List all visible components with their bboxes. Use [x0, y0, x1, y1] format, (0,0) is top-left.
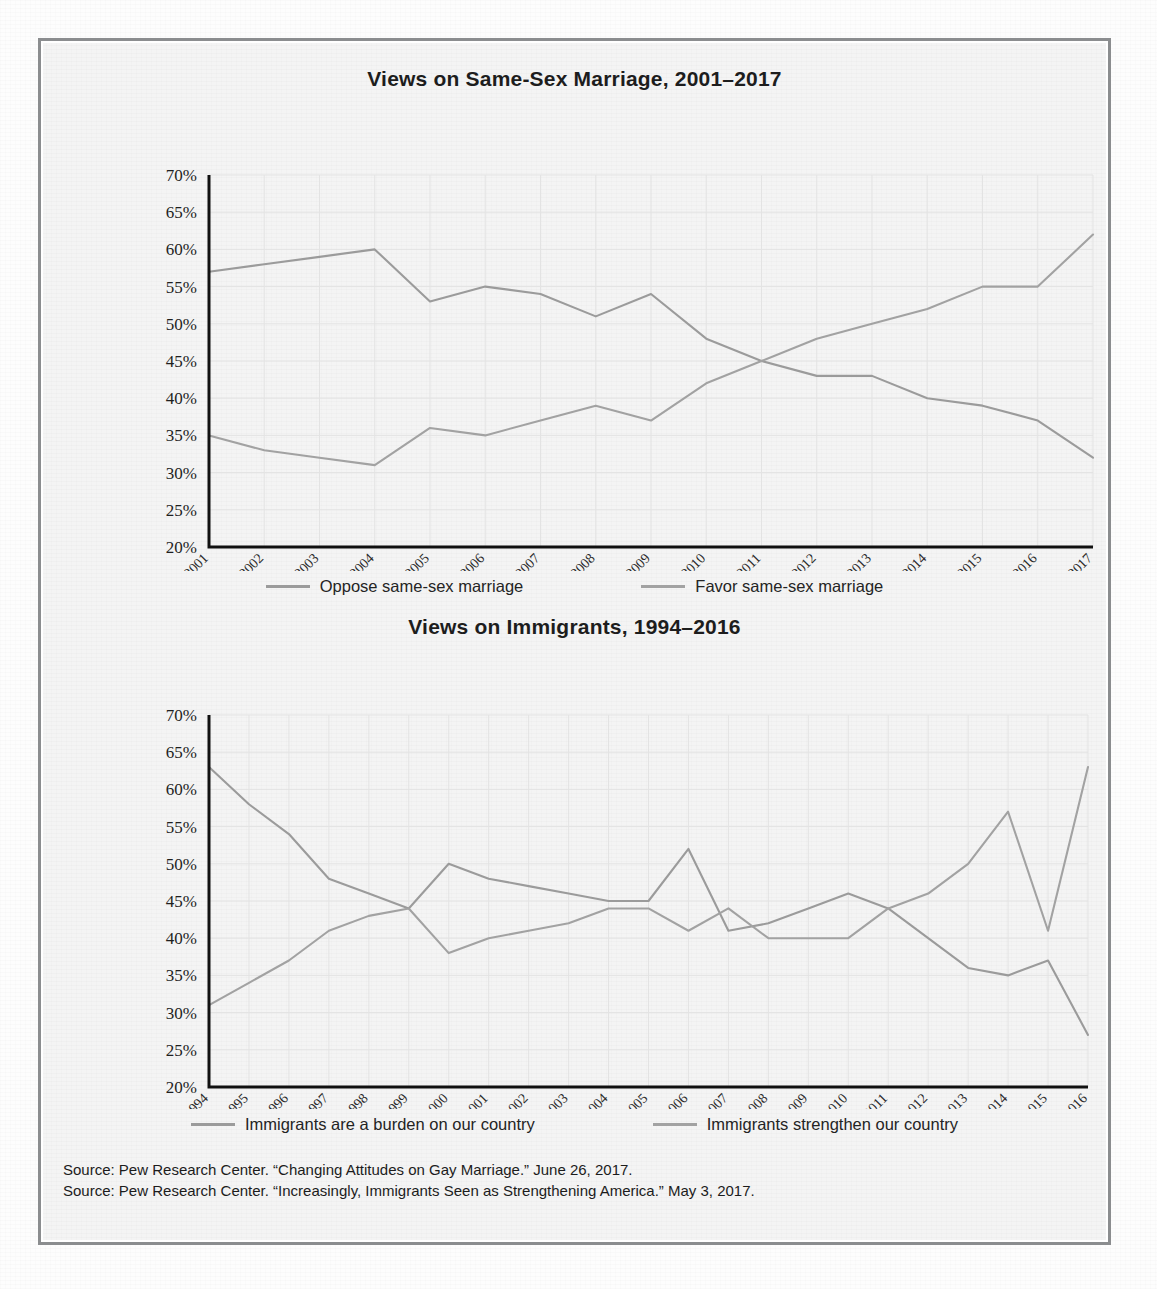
y-axis-tick-label: 45% — [166, 352, 197, 371]
legend-item-strengthen[interactable]: Immigrants strengthen our country — [653, 1115, 958, 1134]
y-axis-tick-label: 60% — [166, 780, 197, 799]
x-axis-tick-label: 2006 — [457, 551, 487, 571]
x-axis-tick-label: 2004 — [346, 551, 376, 571]
x-axis-tick-label: 2013 — [844, 551, 874, 571]
y-axis-tick-label: 70% — [166, 706, 197, 725]
y-axis-tick-label: 30% — [166, 464, 197, 483]
legend-swatch-favor — [641, 585, 685, 588]
legend-swatch-oppose — [266, 585, 310, 588]
y-axis-tick-label: 30% — [166, 1004, 197, 1023]
legend-item-burden[interactable]: Immigrants are a burden on our country — [191, 1115, 535, 1134]
y-axis-tick-label: 60% — [166, 240, 197, 259]
chart-2-plot-area: 70%65%60%55%50%45%40%35%30%25%20%1994199… — [41, 639, 1108, 1109]
legend-label-favor: Favor same-sex marriage — [695, 577, 883, 596]
y-axis-tick-label: 45% — [166, 892, 197, 911]
legend-label-strengthen: Immigrants strengthen our country — [707, 1115, 958, 1134]
x-axis-tick-label: 2007 — [512, 551, 542, 571]
chart-same-sex-marriage: Views on Same-Sex Marriage, 2001–2017 70… — [41, 49, 1108, 609]
x-axis-tick-label: 2005 — [620, 1091, 650, 1109]
source-line-2: Source: Pew Research Center. “Increasing… — [63, 1180, 1083, 1201]
y-axis-tick-label: 40% — [166, 929, 197, 948]
legend-label-oppose: Oppose same-sex marriage — [320, 577, 524, 596]
x-axis-tick-label: 2012 — [900, 1091, 930, 1109]
y-axis-tick-label: 25% — [166, 1041, 197, 1060]
y-axis-tick-label: 55% — [166, 278, 197, 297]
x-axis-tick-label: 2011 — [860, 1091, 890, 1109]
x-axis-tick-label: 2010 — [678, 551, 708, 571]
x-axis-tick-label: 2001 — [460, 1091, 490, 1109]
x-axis-tick-label: 2013 — [940, 1091, 970, 1109]
y-axis-tick-label: 50% — [166, 855, 197, 874]
chart-1-svg: 70%65%60%55%50%45%40%35%30%25%20%2001200… — [41, 91, 1108, 571]
y-axis-tick-label: 35% — [166, 426, 197, 445]
y-axis-tick-label: 65% — [166, 743, 197, 762]
x-axis-tick-label: 2014 — [980, 1091, 1010, 1109]
x-axis-tick-label: 1995 — [221, 1091, 251, 1109]
x-axis-tick-label: 1996 — [261, 1091, 291, 1109]
y-axis-tick-label: 55% — [166, 818, 197, 837]
x-axis-tick-label: 2000 — [420, 1091, 450, 1109]
x-axis-tick-label: 2016 — [1060, 1091, 1090, 1109]
chart-2-svg: 70%65%60%55%50%45%40%35%30%25%20%1994199… — [41, 639, 1108, 1109]
x-axis-tick-label: 2006 — [660, 1091, 690, 1109]
x-axis-tick-label: 2016 — [1009, 551, 1039, 571]
legend-swatch-strengthen — [653, 1123, 697, 1126]
y-axis-tick-label: 70% — [166, 166, 197, 185]
y-axis-tick-label: 35% — [166, 966, 197, 985]
x-axis-tick-label: 2004 — [580, 1091, 610, 1109]
x-axis-tick-label: 2015 — [954, 551, 984, 571]
x-axis-tick-label: 2014 — [899, 551, 929, 571]
legend-label-burden: Immigrants are a burden on our country — [245, 1115, 535, 1134]
x-axis-tick-label: 2008 — [740, 1091, 770, 1109]
x-axis-tick-label: 2011 — [734, 551, 764, 571]
x-axis-tick-label: 2009 — [780, 1091, 810, 1109]
chart-1-plot-area: 70%65%60%55%50%45%40%35%30%25%20%2001200… — [41, 91, 1108, 571]
x-axis-tick-label: 1997 — [301, 1091, 331, 1109]
x-axis-tick-label: 2008 — [567, 551, 597, 571]
chart-1-legend: Oppose same-sex marriage Favor same-sex … — [41, 577, 1108, 596]
x-axis-tick-label: 1999 — [380, 1091, 410, 1109]
y-axis-tick-label: 50% — [166, 315, 197, 334]
y-axis-tick-label: 25% — [166, 501, 197, 520]
x-axis-tick-label: 2002 — [236, 551, 266, 571]
x-axis-tick-label: 2015 — [1020, 1091, 1050, 1109]
x-axis-tick-label: 2010 — [820, 1091, 850, 1109]
y-axis-tick-label: 40% — [166, 389, 197, 408]
y-axis-tick-label: 20% — [166, 1078, 197, 1097]
figure-frame: Views on Same-Sex Marriage, 2001–2017 70… — [38, 38, 1111, 1245]
x-axis-tick-label: 2012 — [788, 551, 818, 571]
legend-item-favor[interactable]: Favor same-sex marriage — [641, 577, 883, 596]
x-axis-tick-label: 2005 — [402, 551, 432, 571]
x-axis-tick-label: 2002 — [500, 1091, 530, 1109]
chart-immigrants: Views on Immigrants, 1994–2016 70%65%60%… — [41, 609, 1108, 1149]
x-axis-tick-label: 2003 — [291, 551, 321, 571]
x-axis-tick-label: 2017 — [1065, 551, 1095, 571]
source-line-1: Source: Pew Research Center. “Changing A… — [63, 1159, 1083, 1180]
chart-2-title: Views on Immigrants, 1994–2016 — [41, 615, 1108, 639]
legend-swatch-burden — [191, 1123, 235, 1126]
x-axis-tick-label: 2007 — [700, 1091, 730, 1109]
legend-item-oppose[interactable]: Oppose same-sex marriage — [266, 577, 524, 596]
chart-2-legend: Immigrants are a burden on our country I… — [41, 1115, 1108, 1134]
x-axis-tick-label: 2003 — [540, 1091, 570, 1109]
y-axis-tick-label: 65% — [166, 203, 197, 222]
x-axis-tick-label: 2009 — [623, 551, 653, 571]
source-notes: Source: Pew Research Center. “Changing A… — [63, 1159, 1083, 1202]
chart-1-title: Views on Same-Sex Marriage, 2001–2017 — [41, 67, 1108, 91]
y-axis-tick-label: 20% — [166, 538, 197, 557]
x-axis-tick-label: 1998 — [341, 1091, 371, 1109]
